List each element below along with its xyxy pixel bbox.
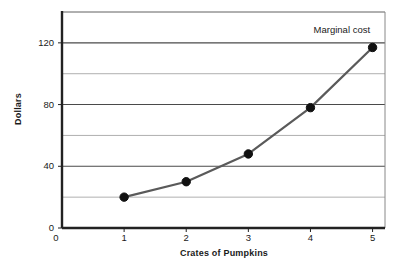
data-point-marker: [120, 193, 128, 201]
data-point-marker: [368, 43, 376, 51]
y-axis-tick-label: 80: [20, 99, 54, 110]
x-axis-tick-label: 2: [176, 232, 196, 243]
x-axis-tick-label: 3: [238, 232, 258, 243]
y-axis-tick-label: 120: [20, 37, 54, 48]
x-axis-tick-label: 4: [300, 232, 320, 243]
x-axis-tick-label: 0: [46, 232, 66, 243]
line-chart-plot: [0, 0, 409, 270]
series-annotation-marginal-cost: Marginal cost: [314, 24, 371, 35]
x-axis-title: Crates of Pumpkins: [62, 248, 386, 258]
plot-background: [62, 12, 385, 228]
y-axis-tick-label: 40: [20, 160, 54, 171]
data-point-marker: [306, 103, 314, 111]
x-axis-tick-label: 1: [114, 232, 134, 243]
chart-figure: Dollars Crates of Pumpkins 04080120 0123…: [0, 0, 409, 270]
data-point-marker: [244, 150, 252, 158]
data-point-marker: [182, 178, 190, 186]
x-axis-tick-label: 5: [363, 232, 383, 243]
